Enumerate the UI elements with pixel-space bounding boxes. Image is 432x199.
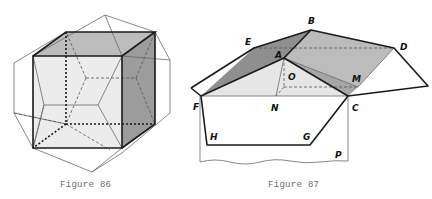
label-f: F	[193, 102, 200, 112]
label-o: O	[288, 72, 296, 82]
label-m: M	[352, 74, 361, 84]
figure-87: B E A D O M F N C H G P Figure 87	[0, 0, 432, 199]
label-g: G	[303, 132, 310, 142]
label-c: C	[352, 103, 359, 113]
label-e: E	[245, 37, 252, 47]
label-p: P	[335, 150, 342, 160]
label-d: D	[400, 42, 408, 52]
label-a: A	[274, 50, 282, 60]
label-n: N	[271, 103, 279, 113]
roof-construction-drawing: B E A D O M F N C H G P	[0, 0, 432, 199]
figure-87-caption: Figure 87	[268, 180, 319, 190]
label-h: H	[210, 132, 218, 142]
label-b: B	[308, 16, 315, 26]
